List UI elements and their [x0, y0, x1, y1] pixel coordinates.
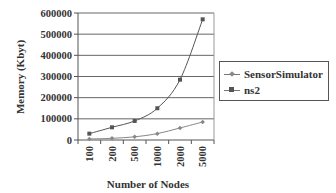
x-tick-label: 5000	[197, 146, 208, 167]
y-tick-label: 500000	[41, 29, 73, 40]
diamond-marker-icon	[155, 131, 160, 136]
y-tick-label: 400000	[41, 50, 73, 61]
square-marker-icon	[133, 119, 137, 123]
legend-item-sensorsimulator: SensorSimulator	[224, 67, 323, 81]
square-marker-icon	[178, 78, 182, 82]
diamond-marker-icon	[200, 120, 205, 125]
y-tick-label: 100000	[41, 113, 73, 124]
data-series	[87, 17, 205, 141]
x-tick-label: 200	[107, 146, 118, 162]
y-tick-label: 0	[67, 135, 72, 146]
y-tick-label: 600000	[41, 8, 73, 19]
diamond-marker-icon	[178, 126, 183, 131]
square-marker-icon	[155, 106, 159, 110]
x-axis-ticks: 100200500100020005000	[78, 140, 214, 167]
diamond-marker-icon	[87, 137, 92, 142]
y-tick-label: 200000	[41, 92, 73, 103]
x-tick-label: 1000	[152, 146, 163, 167]
legend-label: ns2	[244, 84, 260, 96]
chart-legend: SensorSimulator ns2	[219, 61, 329, 101]
ns2-marker-icon	[224, 85, 240, 95]
square-marker-icon	[110, 125, 114, 129]
x-tick-label: 500	[129, 146, 140, 162]
square-marker-icon	[87, 132, 91, 136]
gridlines	[78, 13, 214, 119]
legend-item-ns2: ns2	[224, 83, 260, 97]
legend-label: SensorSimulator	[244, 68, 323, 80]
sensorsimulator-marker-icon	[224, 69, 240, 79]
square-marker-icon	[201, 17, 205, 21]
x-tick-label: 2000	[175, 146, 186, 167]
y-axis-ticks: 0100000200000300000400000500000600000	[41, 8, 79, 146]
y-axis-label: Memory (Kbyt)	[14, 40, 27, 115]
x-tick-label: 100	[84, 146, 95, 162]
diamond-marker-icon	[132, 135, 137, 140]
x-axis-label: Number of Nodes	[107, 178, 190, 190]
series-line-sensorsimulator	[89, 122, 202, 139]
y-tick-label: 300000	[41, 71, 73, 82]
